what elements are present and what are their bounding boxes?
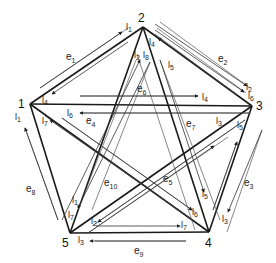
edge-e6 <box>30 104 252 106</box>
flow-label-l4: l4 <box>42 95 48 106</box>
flow-label-l1: l1 <box>126 22 132 33</box>
flow-label-l4: l4 <box>149 37 155 48</box>
flow-arrow <box>50 120 190 218</box>
flow-label-l5: l5 <box>202 189 208 200</box>
flow-label-l1: l1 <box>72 195 78 206</box>
edge-e9 <box>70 232 209 233</box>
flow-label-l3: l3 <box>216 116 222 127</box>
edge-label-e6: e6 <box>137 83 147 96</box>
flow-label-l4: l4 <box>202 92 208 103</box>
edge-label-e7: e7 <box>186 118 196 131</box>
edge-label-e1: e1 <box>66 51 76 64</box>
edge-label-e8: e8 <box>26 183 36 196</box>
flow-label-l1: l1 <box>15 112 21 123</box>
edge-label-e4: e4 <box>86 115 96 128</box>
vertex-2-label: 2 <box>138 11 145 25</box>
vertex-3-label: 3 <box>256 99 263 113</box>
flow-arrow <box>62 118 192 210</box>
flow-label-l2: l2 <box>134 50 140 61</box>
edge-label-e10: e10 <box>104 177 117 190</box>
flow-label-l2: l2 <box>91 216 97 227</box>
edge-e7 <box>143 27 209 232</box>
flow-label-l3: l3 <box>78 235 84 246</box>
vertex-4-label: 4 <box>205 236 212 250</box>
k5-graph-diagram: 1 2 3 4 5 e1 e2 e3 e4 e5 e6 e7 e8 e9 e10… <box>0 0 276 263</box>
flow-arrow <box>98 120 245 222</box>
flow-arrow <box>52 42 128 94</box>
edge-label-e5: e5 <box>163 173 173 186</box>
vertex-5-label: 5 <box>62 236 69 250</box>
vertex-1-label: 1 <box>18 97 25 111</box>
edge-label-e3: e3 <box>244 177 254 190</box>
flow-label-l6: l6 <box>67 108 73 119</box>
vertex-labels: 1 2 3 4 5 <box>18 11 263 250</box>
flow-arrow <box>228 130 262 212</box>
flow-label-l3: l3 <box>222 214 228 225</box>
edge-label-e9: e9 <box>134 245 144 258</box>
flow-arrow <box>40 32 122 88</box>
edge-e8 <box>30 104 70 233</box>
flow-label-l6: l6 <box>192 207 198 218</box>
flow-label-l5: l5 <box>168 60 174 71</box>
edge-label-e2: e2 <box>218 53 228 66</box>
flow-label-l7: l7 <box>181 220 187 231</box>
edge-e1 <box>30 27 143 104</box>
flow-arrow <box>155 24 247 86</box>
flow-label-l8: l8 <box>143 50 149 61</box>
flow-label-l7: l7 <box>68 210 74 221</box>
